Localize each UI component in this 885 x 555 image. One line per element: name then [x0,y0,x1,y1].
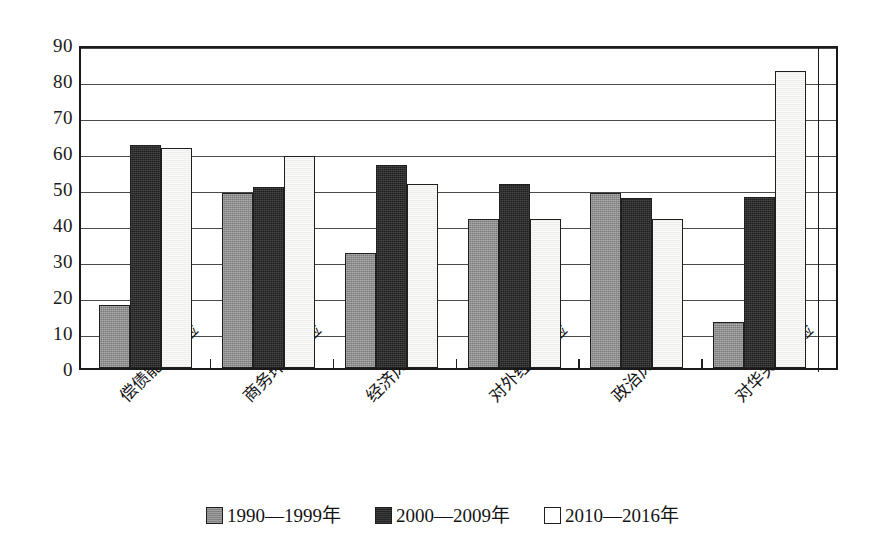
x-tick [701,359,703,368]
chart-legend: 1990—1999年2000—2009年2010—2016年 [0,498,885,532]
y-tick-50: 50 [13,180,73,199]
bar [744,197,775,368]
gridline-90 [81,48,836,49]
y-tick-70: 70 [13,108,73,127]
legend-entry: 2010—2016年 [544,506,679,525]
gridline-30 [81,264,836,265]
bar [590,193,621,368]
bar [713,322,744,368]
plot-inner [81,48,836,368]
bar [222,193,253,368]
gridline-50 [81,192,836,193]
x-tick [333,359,335,368]
bar [652,219,683,368]
legend-entry: 2000—2009年 [375,506,510,525]
bar [99,305,130,368]
gridline-40 [81,228,836,229]
y-tick-10: 10 [13,324,73,343]
y-tick-20: 20 [13,288,73,307]
gridline-80 [81,84,836,85]
legend-swatch-icon [544,507,561,524]
legend-label: 2000—2009年 [396,506,510,525]
bar [407,184,438,368]
bar-chart: 9080706050403020100 偿债能力风险商务环境风险经济风险对外经济… [0,0,885,555]
gridline-60 [81,156,836,157]
bar [345,253,376,368]
bar [284,156,315,368]
legend-label: 1990—1999年 [227,506,341,525]
legend-label: 2010—2016年 [565,506,679,525]
y-tick-30: 30 [13,252,73,271]
x-tick [210,359,212,368]
y-tick-90: 90 [13,36,73,55]
bar [499,184,530,368]
bar [530,219,561,368]
legend-entry: 1990—1999年 [206,506,341,525]
bar [253,187,284,368]
bar [376,165,407,368]
bar [161,148,192,368]
y-tick-80: 80 [13,72,73,91]
bar [130,145,161,368]
legend-swatch-icon [206,507,223,524]
y-tick-40: 40 [13,216,73,235]
x-axis-labels: 偿债能力风险商务环境风险经济风险对外经济风险政治风险对华关系风险 [0,370,885,495]
inner-right-axis [818,48,819,372]
y-tick-60: 60 [13,144,73,163]
x-tick [456,359,458,368]
bar [621,198,652,368]
bar [775,71,806,368]
x-tick [578,359,580,368]
legend-swatch-icon [375,507,392,524]
bar [468,219,499,368]
plot-area [79,46,838,370]
gridline-70 [81,120,836,121]
gridline-20 [81,300,836,301]
